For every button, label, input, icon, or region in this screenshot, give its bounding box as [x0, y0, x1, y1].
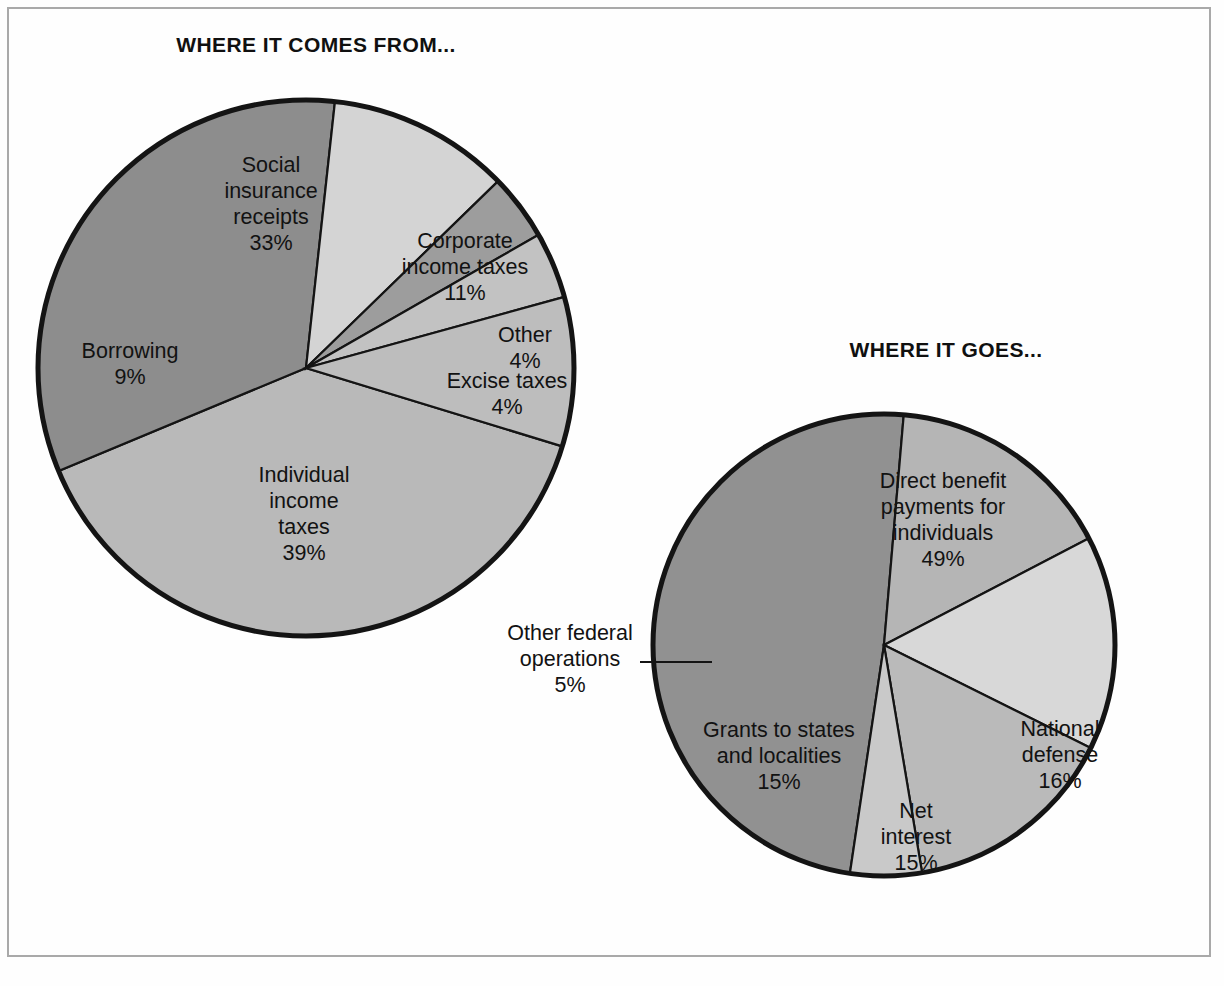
- right-chart-title: WHERE IT GOES...: [849, 338, 1042, 361]
- chart-where-it-goes: WHERE IT GOES... Direct benefitpayments …: [507, 338, 1115, 876]
- figure-page: WHERE IT COMES FROM... Individualincomet…: [0, 0, 1224, 986]
- left-chart-title: WHERE IT COMES FROM...: [176, 33, 455, 56]
- chart-where-it-comes-from: WHERE IT COMES FROM... Individualincomet…: [38, 33, 574, 636]
- pie-slice-label: Other federaloperations5%: [507, 621, 632, 697]
- pie-charts-figure: WHERE IT COMES FROM... Individualincomet…: [0, 0, 1224, 986]
